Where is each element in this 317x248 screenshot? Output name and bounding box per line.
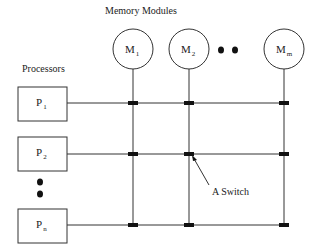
processor-2: P2 [18, 137, 67, 171]
processors-title: Processors [22, 63, 65, 74]
memory-module-2: M2 [169, 29, 209, 69]
memory-modules-title: Memory Modules [105, 5, 177, 16]
switch-label: A Switch [212, 186, 249, 197]
vertical-bus-lines [133, 69, 284, 225]
processor-1: P1 [18, 87, 67, 121]
ellipsis-dots-horizontal [218, 47, 238, 54]
memory-module-1: M1 [113, 29, 153, 69]
horizontal-bus-lines [67, 103, 289, 225]
switch-annotation-arrow [192, 155, 209, 185]
processor-n: Pn [18, 209, 67, 243]
ellipsis-dots-vertical [37, 179, 43, 198]
memory-module-m: Mm [264, 29, 304, 69]
crossbar-switches [128, 101, 289, 227]
crossbar-diagram: Memory Modules Processors M1 M2 Mm P1 P2 [0, 0, 317, 248]
